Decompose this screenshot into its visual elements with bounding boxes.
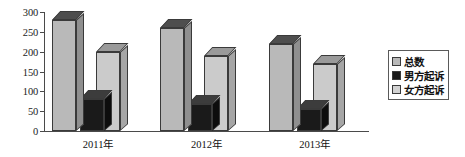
legend-item-total[interactable]: 总数 [392,54,444,68]
y-tick [40,131,44,132]
male-swatch-icon [392,71,401,80]
bar-side-face [76,13,84,131]
legend-item-male[interactable]: 男方起诉 [392,68,444,82]
bar-group [261,12,369,131]
legend-item-female[interactable]: 女方起诉 [392,82,444,96]
bar-side-face [293,37,301,131]
bar-front-face [160,28,184,131]
bar-front-face [52,20,76,131]
bar-side-face [120,45,128,131]
legend-label-female: 女方起诉 [404,82,444,97]
female-swatch-icon [392,85,401,94]
total-swatch-icon [392,57,401,66]
legend-label-total: 总数 [404,54,424,69]
bar-front-face [269,44,293,131]
column-chart: 050100150200250300 2011年2012年2013年 总数 男方… [0,0,465,157]
x-tick-label: 2011年 [83,136,114,151]
bar-side-face [228,49,236,131]
bar-side-face [337,57,345,131]
y-tick-label: 200 [23,46,38,57]
chart-legend: 总数 男方起诉 女方起诉 [388,50,449,100]
x-tick-label: 2013年 [299,136,330,151]
y-tick-label: 250 [23,26,38,37]
plot-area: 050100150200250300 2011年2012年2013年 [44,12,369,131]
legend-label-male: 男方起诉 [404,68,444,83]
x-tick-label: 2012年 [191,136,222,151]
bar-group [152,12,260,131]
bar-side-face [184,21,192,131]
y-tick-label: 50 [28,106,38,117]
y-tick-label: 0 [33,126,38,137]
y-tick-label: 150 [23,66,38,77]
y-tick-label: 300 [23,7,38,18]
bar-group [44,12,152,131]
y-tick-label: 100 [23,86,38,97]
